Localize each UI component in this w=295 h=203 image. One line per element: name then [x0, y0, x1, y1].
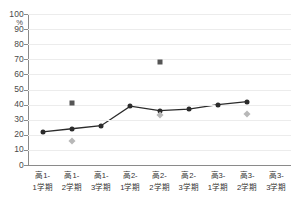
y-axis-tick	[24, 150, 28, 151]
gridline	[28, 105, 291, 106]
x-axis-tick-label-line: 3学期	[262, 182, 291, 194]
data-point-square	[69, 101, 74, 106]
gridline	[28, 14, 291, 15]
x-axis-tick-label: 高2-1学期	[116, 170, 145, 193]
x-axis-tick-label-line: 3学期	[174, 182, 203, 194]
y-axis-tick	[24, 59, 28, 60]
x-axis-tick-label-line: 高3-	[203, 170, 232, 182]
gridline	[28, 150, 291, 151]
x-axis-tick-label-line: 高2-	[174, 170, 203, 182]
y-axis-tick-label: 20	[14, 130, 24, 139]
y-axis-tick	[24, 29, 28, 30]
y-axis-tick-label: 30	[14, 115, 24, 124]
x-axis-tick-label-line: 2学期	[233, 182, 262, 194]
data-point-circle	[69, 126, 74, 131]
x-axis-tick-label: 高1-1学期	[28, 170, 57, 193]
data-point-circle	[128, 104, 133, 109]
x-axis-tick-label-line: 高2-	[145, 170, 174, 182]
y-axis-tick	[24, 90, 28, 91]
y-axis-unit-label: %	[16, 19, 23, 27]
x-axis-tick-label-line: 3学期	[86, 182, 115, 194]
x-axis-tick-label-line: 1学期	[116, 182, 145, 194]
y-axis-tick	[24, 44, 28, 45]
y-axis-tick	[24, 120, 28, 121]
data-point-circle	[186, 107, 191, 112]
gridline	[28, 135, 291, 136]
x-axis-tick-label: 高2-2学期	[145, 170, 174, 193]
x-axis-tick-label: 高2-3学期	[174, 170, 203, 193]
x-axis-tick-label: 高1-2学期	[57, 170, 86, 193]
y-axis-tick	[24, 74, 28, 75]
gridline	[28, 74, 291, 75]
y-axis-tick-label: 60	[14, 70, 24, 79]
data-point-circle	[99, 123, 104, 128]
y-axis-tick	[24, 105, 28, 106]
data-point-circle	[215, 102, 220, 107]
x-axis-tick-label: 高3-2学期	[233, 170, 262, 193]
y-axis-labels: 0102030405060708090100%	[0, 0, 24, 203]
chart-container: 0102030405060708090100% 高1-1学期高1-2学期高1-3…	[0, 0, 295, 203]
gridline	[28, 120, 291, 121]
plot-area	[28, 14, 291, 165]
gridline	[28, 44, 291, 45]
x-axis-tick-label-line: 2学期	[145, 182, 174, 194]
y-axis-tick	[24, 165, 28, 166]
x-axis-labels: 高1-1学期高1-2学期高1-3学期高2-1学期高2-2学期高2-3学期高3-1…	[28, 170, 291, 202]
x-axis-tick-label-line: 高2-	[116, 170, 145, 182]
gridline	[28, 29, 291, 30]
data-point-square	[157, 60, 162, 65]
y-axis-tick	[24, 135, 28, 136]
x-axis-tick-label-line: 2学期	[57, 182, 86, 194]
y-axis-tick	[24, 14, 28, 15]
x-axis-tick-label-line: 高1-	[86, 170, 115, 182]
y-axis-tick-label: 80	[14, 40, 24, 49]
y-axis-tick-label: 10	[14, 145, 24, 154]
y-axis-tick-label: 70	[14, 55, 24, 64]
x-axis-line	[28, 165, 291, 166]
x-axis-tick-label: 高1-3学期	[86, 170, 115, 193]
data-point-circle	[40, 129, 45, 134]
gridline	[28, 90, 291, 91]
x-axis-tick-label-line: 高3-	[233, 170, 262, 182]
x-axis-tick-label-line: 1学期	[203, 182, 232, 194]
x-axis-tick-label: 高3-1学期	[203, 170, 232, 193]
x-axis-tick-label-line: 高1-	[57, 170, 86, 182]
data-point-circle	[245, 99, 250, 104]
x-axis-tick-label: 高3-3学期	[262, 170, 291, 193]
y-axis-tick-label: 40	[14, 100, 24, 109]
x-axis-tick-label-line: 高1-	[28, 170, 57, 182]
x-axis-tick-label-line: 高3-	[262, 170, 291, 182]
x-axis-tick-label-line: 1学期	[28, 182, 57, 194]
y-axis-tick-label: 50	[14, 85, 24, 94]
